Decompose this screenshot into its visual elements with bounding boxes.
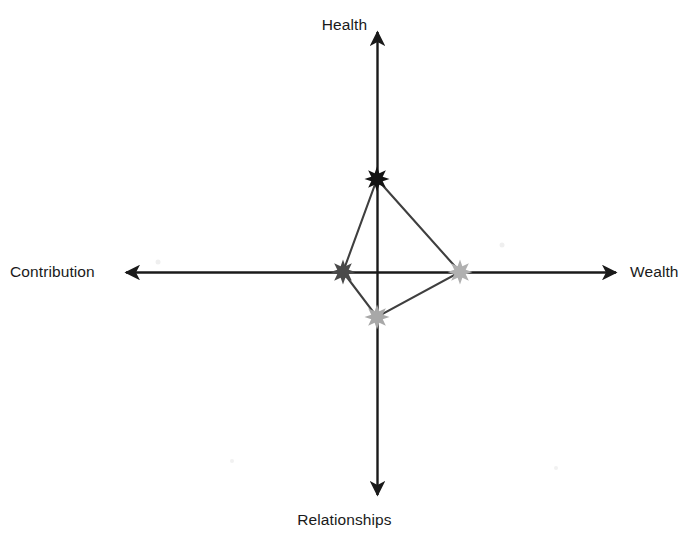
scan-artifact (554, 466, 558, 470)
data-marker-contribution[interactable] (331, 260, 356, 285)
series-polygon (343, 179, 460, 317)
data-marker-relationships[interactable] (365, 305, 390, 330)
axis-label-wealth: Wealth (630, 264, 679, 280)
axis-label-health: Health (0, 17, 689, 33)
axis-label-contribution: Contribution (10, 264, 95, 280)
scan-artifact (156, 260, 161, 265)
scan-artifact (230, 459, 234, 463)
life-balance-radar-chart (0, 0, 689, 538)
data-marker-wealth[interactable] (448, 260, 473, 285)
data-marker-health[interactable] (365, 167, 390, 192)
axis-label-relationships: Relationships (0, 512, 689, 528)
axes-group (126, 32, 616, 495)
scan-artifact (500, 243, 505, 248)
